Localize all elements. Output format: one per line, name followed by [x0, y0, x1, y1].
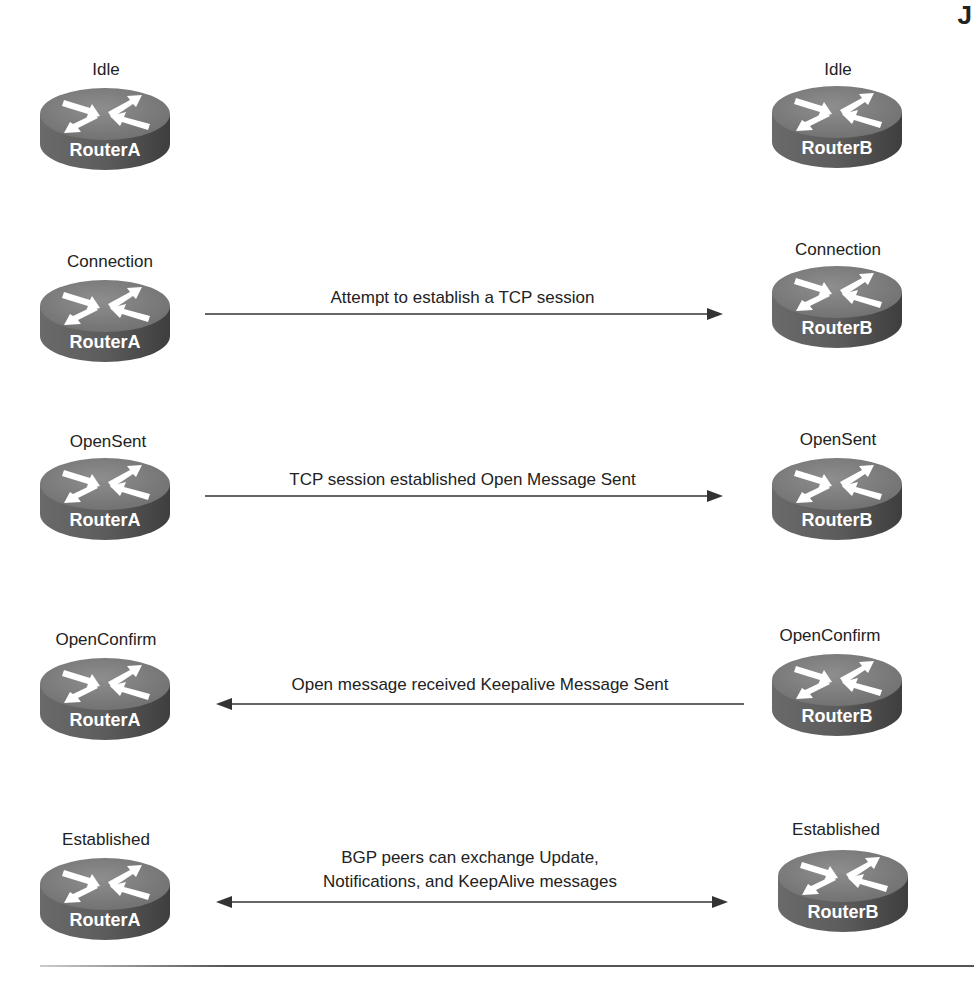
state-label-router-b: Idle — [758, 60, 918, 80]
message-label: BGP peers can exchange Update, Notificat… — [210, 846, 730, 894]
message-line-1: BGP peers can exchange Update, — [210, 846, 730, 870]
arrow-right-icon — [205, 488, 725, 504]
state-label-router-a: Idle — [26, 60, 186, 80]
router-name: RouterB — [770, 138, 904, 159]
router-a: RouterA — [38, 656, 172, 742]
router-b: RouterB — [776, 848, 910, 934]
state-label-router-a: Connection — [30, 252, 190, 272]
corner-glyph: J — [958, 0, 972, 31]
message-line-2: Notifications, and KeepAlive messages — [210, 870, 730, 894]
router-name: RouterB — [770, 318, 904, 339]
router-name: RouterB — [776, 902, 910, 923]
router-name: RouterB — [770, 706, 904, 727]
router-name: RouterA — [38, 710, 172, 731]
state-label-router-b: Established — [756, 820, 916, 840]
router-b: RouterB — [770, 264, 904, 350]
router-name: RouterA — [38, 910, 172, 931]
router-b: RouterB — [770, 84, 904, 170]
router-name: RouterA — [38, 332, 172, 353]
router-a: RouterA — [38, 856, 172, 942]
router-a: RouterA — [38, 456, 172, 542]
state-label-router-b: OpenSent — [758, 430, 918, 450]
arrow-left-icon — [216, 696, 746, 712]
state-label-router-a: Established — [26, 830, 186, 850]
state-label-router-a: OpenSent — [28, 432, 188, 452]
state-label-router-b: OpenConfirm — [750, 626, 910, 646]
router-name: RouterA — [38, 510, 172, 531]
message-label: Open message received Keepalive Message … — [220, 673, 740, 697]
state-label-router-a: OpenConfirm — [26, 630, 186, 650]
router-b: RouterB — [770, 456, 904, 542]
router-a: RouterA — [38, 278, 172, 364]
router-name: RouterA — [38, 140, 172, 161]
state-label-router-b: Connection — [758, 240, 918, 260]
router-b: RouterB — [770, 652, 904, 738]
arrow-right-icon — [205, 306, 725, 322]
arrow-bidirectional-icon — [216, 894, 730, 910]
bottom-divider — [40, 965, 974, 967]
router-a: RouterA — [38, 86, 172, 172]
router-name: RouterB — [770, 510, 904, 531]
